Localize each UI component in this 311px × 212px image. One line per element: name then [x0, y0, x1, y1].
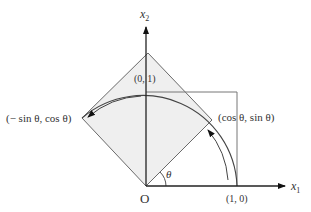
x1-axis-label: x1: [290, 179, 300, 195]
theta-label: θ: [166, 168, 172, 180]
rotated-e2-label: (− sin θ, cos θ): [6, 112, 72, 125]
e1-label: (1, 0): [226, 193, 248, 205]
origin-label: O: [140, 191, 149, 206]
rotation-arrow-e1: [208, 130, 228, 180]
e2-label: (0, 1): [134, 73, 156, 85]
rotated-e1-label: (cos θ, sin θ): [218, 111, 275, 124]
x2-axis-label: x2: [139, 7, 149, 23]
rotation-diagram: x1 x2 O (1, 0) (0, 1) (cos θ, sin θ) (− …: [0, 0, 311, 212]
